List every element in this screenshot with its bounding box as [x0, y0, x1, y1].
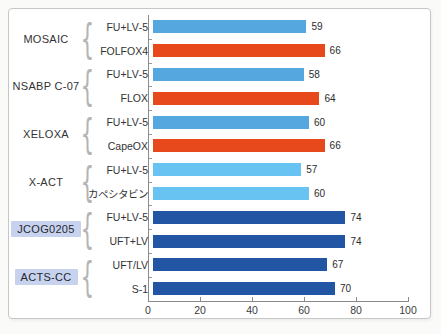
- arm-row: 5-FU+LV 60: [95, 110, 341, 134]
- x-tick-label: 0: [133, 304, 163, 316]
- y-tick: [149, 134, 152, 135]
- bar-row: 74: [153, 235, 362, 248]
- arm-label: CapeOX: [95, 140, 153, 152]
- value-label: 74: [350, 236, 361, 247]
- y-tick: [149, 253, 152, 254]
- bar-row: 59: [153, 20, 323, 33]
- y-tick: [149, 182, 152, 183]
- group-arms: 5-FU+LV 74 UFT+LV 74: [95, 205, 362, 253]
- arm-row: CapeOX 66: [95, 134, 341, 158]
- trial-group: NSABP C-07 { 5-FU+LV 58 FLOX 64: [13, 63, 362, 111]
- bar-row: 60: [153, 116, 325, 129]
- arm-label: 5-FU+LV: [95, 211, 153, 223]
- arm-row: UFT+LV 74: [95, 229, 362, 253]
- arm-label: FOLFOX4: [95, 45, 153, 57]
- figure-frame: MOSAIC { 5-FU+LV 59 FOLFOX4 66 NSABP C-0…: [8, 8, 431, 319]
- y-tick: [149, 39, 152, 40]
- brace-cell: {: [79, 110, 95, 158]
- arm-label: 5-FU+LV: [95, 164, 153, 176]
- bar: [153, 68, 304, 81]
- bar: [153, 258, 327, 271]
- bar: [153, 20, 306, 33]
- x-tick-label: 20: [185, 304, 215, 316]
- brace-cell: {: [79, 205, 95, 253]
- brace-icon: {: [80, 209, 94, 250]
- value-label: 60: [314, 117, 325, 128]
- trial-label-cell: XELOXA: [13, 110, 79, 158]
- y-tick: [149, 86, 152, 87]
- value-label: 57: [306, 164, 317, 175]
- arm-row: FOLFOX4 66: [95, 39, 341, 63]
- trial-label-cell: JCOG0205: [13, 205, 79, 253]
- value-label: 66: [330, 45, 341, 56]
- x-tick-label: 40: [237, 304, 267, 316]
- trial-label: X-ACT: [29, 176, 64, 188]
- trial-group: XELOXA { 5-FU+LV 60 CapeOX 66: [13, 110, 362, 158]
- x-tick-label: 100: [393, 304, 423, 316]
- bar: [153, 187, 309, 200]
- group-arms: UFT/LV 67 S-1 70: [95, 253, 351, 301]
- y-tick: [149, 229, 152, 230]
- brace-cell: {: [79, 158, 95, 206]
- trial-label-cell: NSABP C-07: [13, 63, 79, 111]
- x-tick: [148, 297, 149, 301]
- bar-row: 70: [153, 282, 351, 295]
- bar-groups: MOSAIC { 5-FU+LV 59 FOLFOX4 66 NSABP C-0…: [13, 15, 362, 301]
- brace-cell: {: [79, 15, 95, 63]
- bar-row: 57: [153, 163, 317, 176]
- y-tick: [149, 110, 152, 111]
- x-tick-label: 60: [289, 304, 319, 316]
- trial-label-cell: MOSAIC: [13, 15, 79, 63]
- trial-group: X-ACT { 5-FU+LV 57 カペシタビン 60: [13, 158, 362, 206]
- bar-row: 58: [153, 68, 320, 81]
- y-tick: [149, 158, 152, 159]
- trial-label-cell: ACTS-CC: [13, 253, 79, 301]
- x-tick: [304, 297, 305, 301]
- brace-icon: {: [80, 18, 94, 59]
- trial-label: JCOG0205: [11, 221, 80, 237]
- value-label: 60: [314, 188, 325, 199]
- arm-label: 5-FU+LV: [95, 21, 153, 33]
- x-tick-label: 80: [341, 304, 371, 316]
- arm-label: UFT+LV: [95, 235, 153, 247]
- bar: [153, 282, 335, 295]
- x-tick: [356, 297, 357, 301]
- arm-row: 5-FU+LV 57: [95, 158, 325, 182]
- arm-row: S-1 70: [95, 277, 351, 301]
- value-label: 67: [332, 259, 343, 270]
- arm-row: FLOX 64: [95, 86, 336, 110]
- value-label: 70: [340, 283, 351, 294]
- group-arms: 5-FU+LV 60 CapeOX 66: [95, 110, 341, 158]
- bar-row: 64: [153, 92, 336, 105]
- x-axis: [148, 301, 409, 302]
- bar: [153, 139, 325, 152]
- bar: [153, 211, 345, 224]
- bar: [153, 116, 309, 129]
- brace-icon: {: [80, 114, 94, 155]
- arm-label: FLOX: [95, 92, 153, 104]
- trial-group: JCOG0205 { 5-FU+LV 74 UFT+LV 74: [13, 205, 362, 253]
- value-label: 59: [311, 21, 322, 32]
- group-arms: 5-FU+LV 59 FOLFOX4 66: [95, 15, 341, 63]
- bar-row: 60: [153, 187, 325, 200]
- y-tick: [149, 63, 152, 64]
- arm-label: カペシタビン: [95, 186, 153, 201]
- x-tick: [200, 297, 201, 301]
- group-arms: 5-FU+LV 57 カペシタビン 60: [95, 158, 325, 206]
- bar-row: 66: [153, 44, 341, 57]
- arm-row: カペシタビン 60: [95, 182, 325, 206]
- arm-label: S-1: [95, 283, 153, 295]
- trial-label: NSABP C-07: [13, 80, 80, 92]
- brace-cell: {: [79, 63, 95, 111]
- x-tick: [252, 297, 253, 301]
- trial-group: ACTS-CC { UFT/LV 67 S-1 70: [13, 253, 362, 301]
- arm-label: 5-FU+LV: [95, 68, 153, 80]
- trial-label: MOSAIC: [23, 33, 68, 45]
- bar: [153, 235, 345, 248]
- trial-label: ACTS-CC: [15, 269, 78, 285]
- arm-row: 5-FU+LV 58: [95, 63, 336, 87]
- bar-row: 67: [153, 258, 343, 271]
- arm-row: 5-FU+LV 74: [95, 205, 362, 229]
- brace-cell: {: [79, 253, 95, 301]
- bar-chart: MOSAIC { 5-FU+LV 59 FOLFOX4 66 NSABP C-0…: [9, 9, 430, 318]
